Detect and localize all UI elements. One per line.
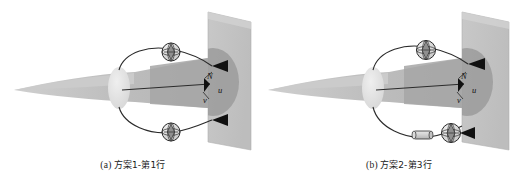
- panel-b: N v u (b)方案2-第3行: [266, 0, 532, 189]
- hub-ellipse: [108, 67, 130, 109]
- panel-a: N v u (a)方案1-第1行: [0, 0, 266, 189]
- panel-a-graphic: N v u: [0, 0, 266, 160]
- label-v-a: v: [203, 95, 207, 105]
- label-u-b: u: [472, 85, 476, 95]
- caption-a-index: (a): [100, 160, 111, 170]
- label-v-b: v: [457, 95, 461, 105]
- lower-crosshair-sphere-icon: [162, 123, 180, 141]
- caption-a-text: 方案1-第1行: [114, 160, 166, 170]
- upper-crosshair-sphere-icon: [417, 41, 436, 60]
- label-u-a: u: [218, 85, 222, 95]
- hub-ellipse: [362, 67, 384, 109]
- upper-crosshair-sphere-icon: [162, 43, 180, 61]
- panel-b-graphic: N v u: [266, 0, 532, 160]
- caption-b-text: 方案2-第3行: [380, 160, 432, 170]
- lower-cylinder-icon: [412, 131, 433, 139]
- caption-b-index: (b): [366, 160, 378, 170]
- figure-container: N v u (a)方案1-第1行: [0, 0, 532, 189]
- caption-b: (b)方案2-第3行: [266, 158, 532, 171]
- caption-a: (a)方案1-第1行: [0, 158, 266, 171]
- lower-crosshair-sphere-icon: [442, 124, 461, 143]
